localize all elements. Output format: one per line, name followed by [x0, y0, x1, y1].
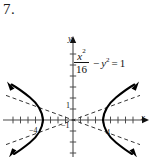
numerator-exponent: 2 — [82, 47, 86, 55]
x-axis-label: x — [141, 112, 145, 122]
coordinate-plot — [0, 0, 151, 157]
right-hand-side: 1 — [120, 57, 126, 69]
hyperbola-right-branch-lower — [103, 120, 132, 154]
fraction-denominator: 16 — [74, 64, 89, 75]
hyperbola-right-branch-upper — [103, 85, 135, 121]
x-tick-label-negative-4: −4 — [29, 126, 38, 135]
equals-sign: = — [112, 57, 118, 69]
x-tick-label-positive-4: 4 — [106, 128, 110, 137]
fraction-numerator: x2 — [75, 50, 87, 62]
equation-annotation: x2 16 − y2 = 1 — [74, 50, 125, 75]
y-tick-label-negative-1: −1 — [61, 121, 70, 130]
hyperbola-figure: 7. — [0, 0, 151, 157]
second-term-exponent: 2 — [106, 56, 110, 64]
fraction-x-squared-over-16: x2 16 — [74, 50, 89, 75]
hyperbola-left-branch-upper — [12, 85, 44, 121]
y-tick-label-positive-1: 1 — [66, 101, 70, 110]
y-axis-label: y — [68, 33, 72, 43]
minus-operator: − — [93, 57, 99, 69]
